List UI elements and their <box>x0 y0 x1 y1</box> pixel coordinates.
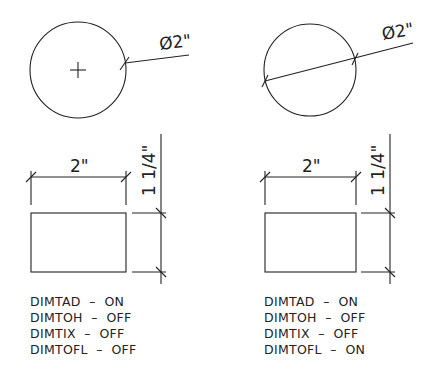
setting-dimtoh: DIMTOH – OFF <box>264 310 366 325</box>
left-panel: Ø2" 2" 1 1/4" DIMTAD – ON DIMTOH – OFF <box>26 22 192 357</box>
left-horizontal-dimension: 2" <box>26 156 131 205</box>
right-settings-list: DIMTAD – ON DIMTOH – OFF DIMTIX – OFF DI… <box>264 294 366 357</box>
width-label: 2" <box>302 156 321 176</box>
left-circle-group <box>30 22 126 118</box>
left-vertical-dimension: 1 1/4" <box>132 134 166 284</box>
setting-dimtofl: DIMTOFL – OFF <box>30 342 137 357</box>
right-diameter-dimension: Ø2" <box>262 19 415 87</box>
setting-dimtofl: DIMTOFL – ON <box>264 342 365 357</box>
leader-line <box>125 55 189 63</box>
right-vertical-dimension: 1 1/4" <box>361 134 395 284</box>
setting-dimtad: DIMTAD – ON <box>264 294 358 309</box>
width-label: 2" <box>70 156 89 176</box>
setting-dimtix: DIMTIX – OFF <box>30 326 125 341</box>
right-horizontal-dimension: 2" <box>260 156 361 205</box>
diameter-label: Ø2" <box>158 30 192 54</box>
right-panel: Ø2" 2" 1 1/4" DIMTAD – ON DIMTOH – OFF <box>260 19 415 357</box>
dimension-settings-diagram: Ø2" 2" 1 1/4" DIMTAD – ON DIMTOH – OFF <box>0 0 428 378</box>
setting-dimtoh: DIMTOH – OFF <box>30 310 132 325</box>
setting-dimtad: DIMTAD – ON <box>30 294 124 309</box>
left-diameter-dimension: Ø2" <box>120 30 192 70</box>
diameter-label: Ø2" <box>380 19 415 44</box>
left-settings-list: DIMTAD – ON DIMTOH – OFF DIMTIX – OFF DI… <box>30 294 137 357</box>
height-label: 1 1/4" <box>368 145 388 196</box>
setting-dimtix: DIMTIX – OFF <box>264 326 359 341</box>
right-rectangle <box>265 213 356 272</box>
left-rectangle <box>31 213 126 272</box>
height-label: 1 1/4" <box>139 145 159 196</box>
diameter-line <box>265 43 413 81</box>
